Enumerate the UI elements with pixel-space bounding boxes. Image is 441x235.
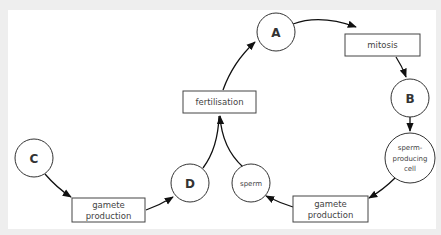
node-b: B [391, 79, 429, 117]
sperm-producing-cell-line-2: producing [392, 155, 427, 163]
node-sperm-label: sperm [240, 180, 262, 188]
node-d: D [171, 164, 209, 202]
node-fertilisation: fertilisation [183, 91, 256, 113]
edge-sperm-producing-cell-to-gamete-production [369, 178, 395, 198]
edge-fertilisation-to-a [223, 42, 255, 90]
node-sperm: sperm [232, 164, 270, 202]
sperm-producing-cell-line-1: sperm- [398, 144, 423, 152]
node-b-label: B [405, 92, 414, 106]
node-a: A [257, 13, 295, 51]
sperm-producing-cell-line-3: cell [404, 165, 416, 173]
node-c: C [15, 139, 53, 177]
edge-mitosis-to-b [396, 57, 406, 77]
gamete-production-right-line-2: production [308, 210, 354, 220]
edge-a-to-mitosis [293, 20, 356, 27]
node-c-label: C [30, 152, 39, 166]
edge-d-to-fertilisation [203, 116, 219, 168]
gamete-production-left-line-1: gamete [92, 200, 125, 210]
node-sperm-producing-cell: sperm- producing cell [385, 133, 435, 183]
edge-gamete-production-to-sperm [266, 196, 293, 207]
edge-c-to-gamete-production [45, 174, 71, 197]
edge-sperm-to-fertilisation [220, 116, 243, 167]
gamete-production-right-line-1: gamete [314, 199, 347, 209]
life-cycle-diagram: A mitosis B sperm- producing cell gamete… [0, 0, 441, 235]
node-mitosis: mitosis [345, 34, 420, 56]
node-fertilisation-label: fertilisation [195, 97, 243, 107]
gamete-production-left-line-2: production [86, 211, 132, 221]
node-mitosis-label: mitosis [367, 40, 398, 50]
node-a-label: A [271, 26, 281, 40]
node-gamete-production-right: gamete production [293, 196, 368, 222]
node-d-label: D [185, 177, 195, 191]
node-gamete-production-left: gamete production [72, 198, 145, 222]
edge-gamete-production-to-d [146, 197, 173, 210]
